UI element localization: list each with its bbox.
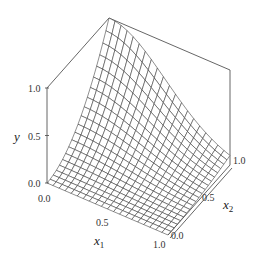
surface-plot: 1.0 0.5 0.0 y 0.0 0.5 1.0 x1 0.0 0.5 1.0… xyxy=(0,0,256,265)
x2-tick-1.0: 1.0 xyxy=(233,155,246,166)
x2-tick-0.5: 0.5 xyxy=(202,192,215,203)
y-tick-0.0: 0.0 xyxy=(28,178,41,189)
x2-axis-label: x2 xyxy=(222,197,233,214)
x2-tick-0.0: 0.0 xyxy=(171,230,184,241)
x1-tick-0.0: 0.0 xyxy=(38,193,51,204)
x1-axis-label: x1 xyxy=(93,233,104,250)
x1-tick-1.0: 1.0 xyxy=(153,239,166,250)
y-tick-1.0: 1.0 xyxy=(28,83,41,94)
y-tick-0.5: 0.5 xyxy=(28,131,41,142)
y-axis-label: y xyxy=(12,129,20,144)
x1-tick-0.5: 0.5 xyxy=(96,217,109,228)
